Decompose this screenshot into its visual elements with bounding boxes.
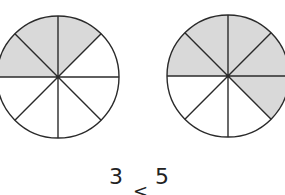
left-circle (0, 16, 119, 138)
sector-divider (58, 77, 101, 120)
left-numerator-label: 3 (109, 166, 123, 188)
shaded-sector (58, 16, 101, 77)
sector-divider (185, 76, 228, 119)
sector-divider (15, 77, 58, 120)
comparison-symbol: < (133, 182, 148, 195)
center-point (56, 75, 60, 79)
right-circle (167, 15, 285, 137)
right-numerator-label: 5 (155, 166, 169, 188)
fraction-diagram (0, 0, 285, 195)
center-point (226, 74, 230, 78)
